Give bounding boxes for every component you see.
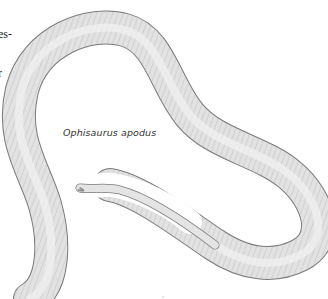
specks xyxy=(162,296,164,298)
book-page: es- r xyxy=(0,0,328,299)
lizard-illustration xyxy=(0,0,328,299)
species-caption: Ophisaurus apodus xyxy=(63,127,156,138)
lizard-body xyxy=(19,28,318,299)
